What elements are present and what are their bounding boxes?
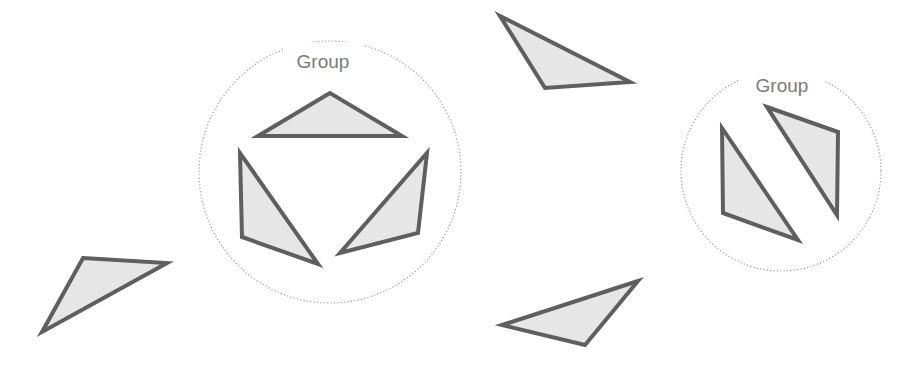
group-1-label: Group <box>297 51 350 72</box>
loose-triangle-bottom-left[interactable] <box>42 258 167 332</box>
group-2-label: Group <box>756 75 809 96</box>
group-1-triangle-top[interactable] <box>258 93 402 136</box>
loose-triangle-bottom-middle[interactable] <box>502 281 638 345</box>
group-1[interactable]: Group <box>199 41 461 303</box>
group-2[interactable]: Group <box>681 66 881 271</box>
loose-triangle-top[interactable] <box>500 16 630 88</box>
group-2-triangle-right[interactable] <box>767 107 838 215</box>
diagram-canvas: Group Group <box>0 0 917 377</box>
group-2-boundary <box>681 71 881 271</box>
group-1-triangle-right[interactable] <box>340 153 427 253</box>
group-2-triangle-left[interactable] <box>722 128 798 240</box>
group-1-triangle-left[interactable] <box>240 153 318 264</box>
